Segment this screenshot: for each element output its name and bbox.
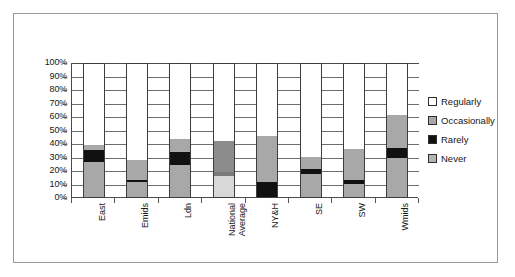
bar-segment-rarely (84, 150, 104, 162)
y-axis-tick-mark (63, 104, 67, 105)
y-axis-labels: 100%90%80%70%60%50%40%30%20%10%0% (31, 63, 67, 198)
x-axis-label: SE (314, 203, 324, 265)
legend-item[interactable]: Regularly (428, 94, 514, 109)
x-axis-labels: EastEmidsLdnNational AverageNY&HSESWWmid… (71, 203, 419, 265)
bar-slot (332, 63, 375, 198)
bar-segment-never (84, 162, 104, 197)
bar-slot (202, 63, 245, 198)
y-axis-tick-mark (63, 131, 67, 132)
y-axis-tick-mark (63, 171, 67, 172)
y-axis-tick-label: 100% (33, 58, 67, 67)
y-axis-tick-label: 40% (33, 139, 67, 148)
chart-legend: RegularlyOccasionallyRarelyNever (428, 94, 514, 170)
stacked-bar[interactable] (300, 63, 322, 198)
bar-segment-occasionally (127, 160, 147, 180)
bar-segment-never (127, 182, 147, 197)
bar-segment-regularly (170, 64, 190, 138)
y-axis-tick-mark (63, 90, 67, 91)
y-axis-tick-label: 20% (33, 166, 67, 175)
legend-item[interactable]: Occasionally (428, 113, 514, 128)
bar-slot (72, 63, 115, 198)
y-axis-tick-label: 50% (33, 126, 67, 135)
bar-segment-occasionally (214, 141, 234, 172)
y-axis-tick-mark (63, 144, 67, 145)
x-axis-label: Emids (140, 203, 150, 265)
y-axis-tick-label: 80% (33, 85, 67, 94)
legend-label: Regularly (441, 97, 481, 107)
x-axis-label: Ldn (183, 203, 193, 265)
stacked-bar[interactable] (213, 63, 235, 198)
bar-segment-never (214, 176, 234, 197)
bar-slot (115, 63, 158, 198)
bar-segment-occasionally (387, 115, 407, 148)
bar-slot (246, 63, 289, 198)
bar-segment-never (344, 184, 364, 197)
y-axis-tick-label: 60% (33, 112, 67, 121)
legend-item[interactable]: Rarely (428, 132, 514, 147)
bar-segment-occasionally (170, 139, 190, 152)
legend-swatch-never (428, 154, 437, 163)
bar-segment-regularly (84, 64, 104, 145)
bar-segment-occasionally (301, 157, 321, 169)
chart-frame: 100%90%80%70%60%50%40%30%20%10%0% EastEm… (13, 13, 498, 263)
bar-segment-never (301, 174, 321, 197)
y-axis-tick-mark (63, 77, 67, 78)
x-axis-label: NY&H (270, 203, 280, 265)
x-axis-label: East (97, 203, 107, 265)
bar-segment-rarely (170, 152, 190, 165)
legend-label: Rarely (441, 135, 468, 145)
bar-segment-occasionally (257, 136, 277, 183)
bar-segment-never (387, 158, 407, 197)
bar-segment-rarely (387, 148, 407, 159)
bar-segment-regularly (344, 64, 364, 149)
bar-segment-regularly (214, 64, 234, 141)
y-axis-tick-label: 70% (33, 99, 67, 108)
plot-area (71, 63, 418, 198)
legend-swatch-occasionally (428, 116, 437, 125)
stacked-bar[interactable] (126, 63, 148, 198)
x-axis-label: Wmids (400, 203, 410, 265)
y-axis-tick-mark (63, 117, 67, 118)
bar-segment-never (170, 165, 190, 197)
y-axis-tick-label: 90% (33, 72, 67, 81)
bar-slot (376, 63, 419, 198)
y-axis-tick-mark (63, 158, 67, 159)
stacked-bar[interactable] (83, 63, 105, 198)
bar-segment-occasionally (344, 149, 364, 180)
bar-slot (159, 63, 202, 198)
bar-segment-regularly (257, 64, 277, 136)
legend-label: Never (441, 154, 466, 164)
stacked-bar[interactable] (169, 63, 191, 198)
y-axis-tick-label: 0% (33, 193, 67, 202)
stacked-bar[interactable] (256, 63, 278, 198)
bar-segment-regularly (387, 64, 407, 115)
legend-swatch-rarely (428, 135, 437, 144)
y-axis-tick-mark (63, 63, 67, 64)
bar-slot (289, 63, 332, 198)
stacked-bar[interactable] (343, 63, 365, 198)
y-axis-tick-mark (63, 198, 67, 199)
bar-segment-regularly (127, 64, 147, 160)
bar-segment-regularly (301, 64, 321, 157)
legend-label: Occasionally (441, 116, 495, 126)
x-axis-label: SW (357, 203, 367, 265)
bar-segment-rarely (257, 182, 277, 197)
y-axis-tick-label: 30% (33, 153, 67, 162)
legend-swatch-regularly (428, 97, 437, 106)
x-axis-label: National Average (227, 203, 247, 265)
stacked-bar[interactable] (386, 63, 408, 198)
y-axis-tick-label: 10% (33, 180, 67, 189)
y-axis-tick-mark (63, 185, 67, 186)
legend-item[interactable]: Never (428, 151, 514, 166)
